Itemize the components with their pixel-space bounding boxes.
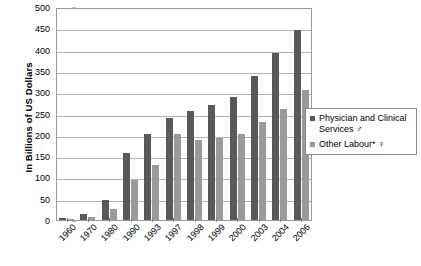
- bar-chart: In Billions of US Dollars 05010015020025…: [0, 0, 421, 266]
- x-axis-tick-label: 1990: [116, 222, 141, 247]
- y-axis-tick-label: 100: [20, 173, 50, 183]
- bar-group: [78, 9, 99, 220]
- x-axis-tick-label: 1997: [159, 222, 184, 247]
- x-axis-tick-mark: [301, 218, 302, 222]
- bar: [294, 30, 301, 220]
- x-axis-tick-mark: [109, 218, 110, 222]
- bar: [88, 217, 95, 220]
- x-axis-tick-mark: [67, 218, 68, 222]
- bar: [174, 134, 181, 220]
- x-axis-tick-label: 1993: [138, 222, 163, 247]
- bar-group: [206, 9, 227, 220]
- bar-group: [185, 9, 206, 220]
- bar-group: [121, 9, 142, 220]
- bar: [131, 180, 138, 220]
- bar-group: [100, 9, 121, 220]
- x-axis-tick-label: 1998: [180, 222, 205, 247]
- y-axis-tick-label: 450: [20, 24, 50, 34]
- x-axis-tick-labels: 1960197019801990199319971998199920002003…: [56, 222, 312, 266]
- bar: [238, 134, 245, 220]
- bar: [259, 122, 266, 220]
- x-axis-tick-label: 2000: [223, 222, 248, 247]
- x-axis-tick-mark: [216, 218, 217, 222]
- bar: [187, 111, 194, 220]
- y-axis-tick-label: 150: [20, 152, 50, 162]
- bar: [166, 118, 173, 220]
- legend-item[interactable]: Other Labour* ♀: [310, 139, 412, 150]
- bar: [280, 109, 287, 220]
- plot-area: [56, 8, 312, 221]
- x-axis-tick-mark: [152, 218, 153, 222]
- y-axis-tick-label: 0: [20, 216, 50, 226]
- bar: [216, 138, 223, 220]
- legend-item-label: Other Labour* ♀: [319, 139, 385, 150]
- bar-group: [249, 9, 270, 220]
- legend-item-label: Physician and Clinical Services ♂: [319, 113, 412, 135]
- chart-legend: Physician and Clinical Services ♂Other L…: [305, 108, 417, 155]
- bar: [272, 53, 279, 220]
- x-axis-tick-mark: [259, 218, 260, 222]
- bar: [59, 218, 66, 220]
- x-axis-tick-mark: [237, 218, 238, 222]
- bar: [144, 134, 151, 220]
- legend-swatch-icon: [310, 142, 315, 147]
- y-axis-tick-label: 400: [20, 46, 50, 56]
- legend-swatch-icon: [310, 116, 315, 121]
- y-axis-tick-label: 200: [20, 131, 50, 141]
- bar: [251, 76, 258, 220]
- x-axis-tick-label: 1970: [74, 222, 99, 247]
- x-axis-tick-mark: [173, 218, 174, 222]
- x-axis-tick-label: 1999: [202, 222, 227, 247]
- x-axis-tick-label: 1980: [95, 222, 120, 247]
- y-axis-tick-label: 250: [20, 110, 50, 120]
- x-axis-tick-mark: [131, 218, 132, 222]
- bar: [152, 165, 159, 220]
- bar: [80, 214, 87, 220]
- y-axis-tick-label: 300: [20, 88, 50, 98]
- x-axis-tick-mark: [280, 218, 281, 222]
- bar-group: [228, 9, 249, 220]
- bar: [230, 97, 237, 220]
- x-axis-tick-label: 2004: [266, 222, 291, 247]
- bar: [110, 209, 117, 221]
- x-axis-tick-label: 1960: [52, 222, 77, 247]
- x-axis-tick-label: 2006: [287, 222, 312, 247]
- x-axis-tick-label: 2003: [244, 222, 269, 247]
- bar-group: [270, 9, 291, 220]
- y-axis-tick-label: 500: [20, 3, 50, 13]
- legend-item[interactable]: Physician and Clinical Services ♂: [310, 113, 412, 135]
- y-axis-tick-label: 50: [20, 195, 50, 205]
- bar-group: [142, 9, 163, 220]
- bar: [195, 140, 202, 220]
- bar-group: [57, 9, 78, 220]
- y-axis-tick-labels: 050100150200250300350400450500: [20, 8, 50, 221]
- x-axis-tick-mark: [195, 218, 196, 222]
- bar: [102, 200, 109, 220]
- bar-group: [164, 9, 185, 220]
- bar: [208, 105, 215, 220]
- y-axis-tick-label: 350: [20, 67, 50, 77]
- bar: [67, 219, 74, 220]
- bars-layer: [57, 9, 311, 220]
- x-axis-tick-mark: [88, 218, 89, 222]
- bar: [123, 153, 130, 220]
